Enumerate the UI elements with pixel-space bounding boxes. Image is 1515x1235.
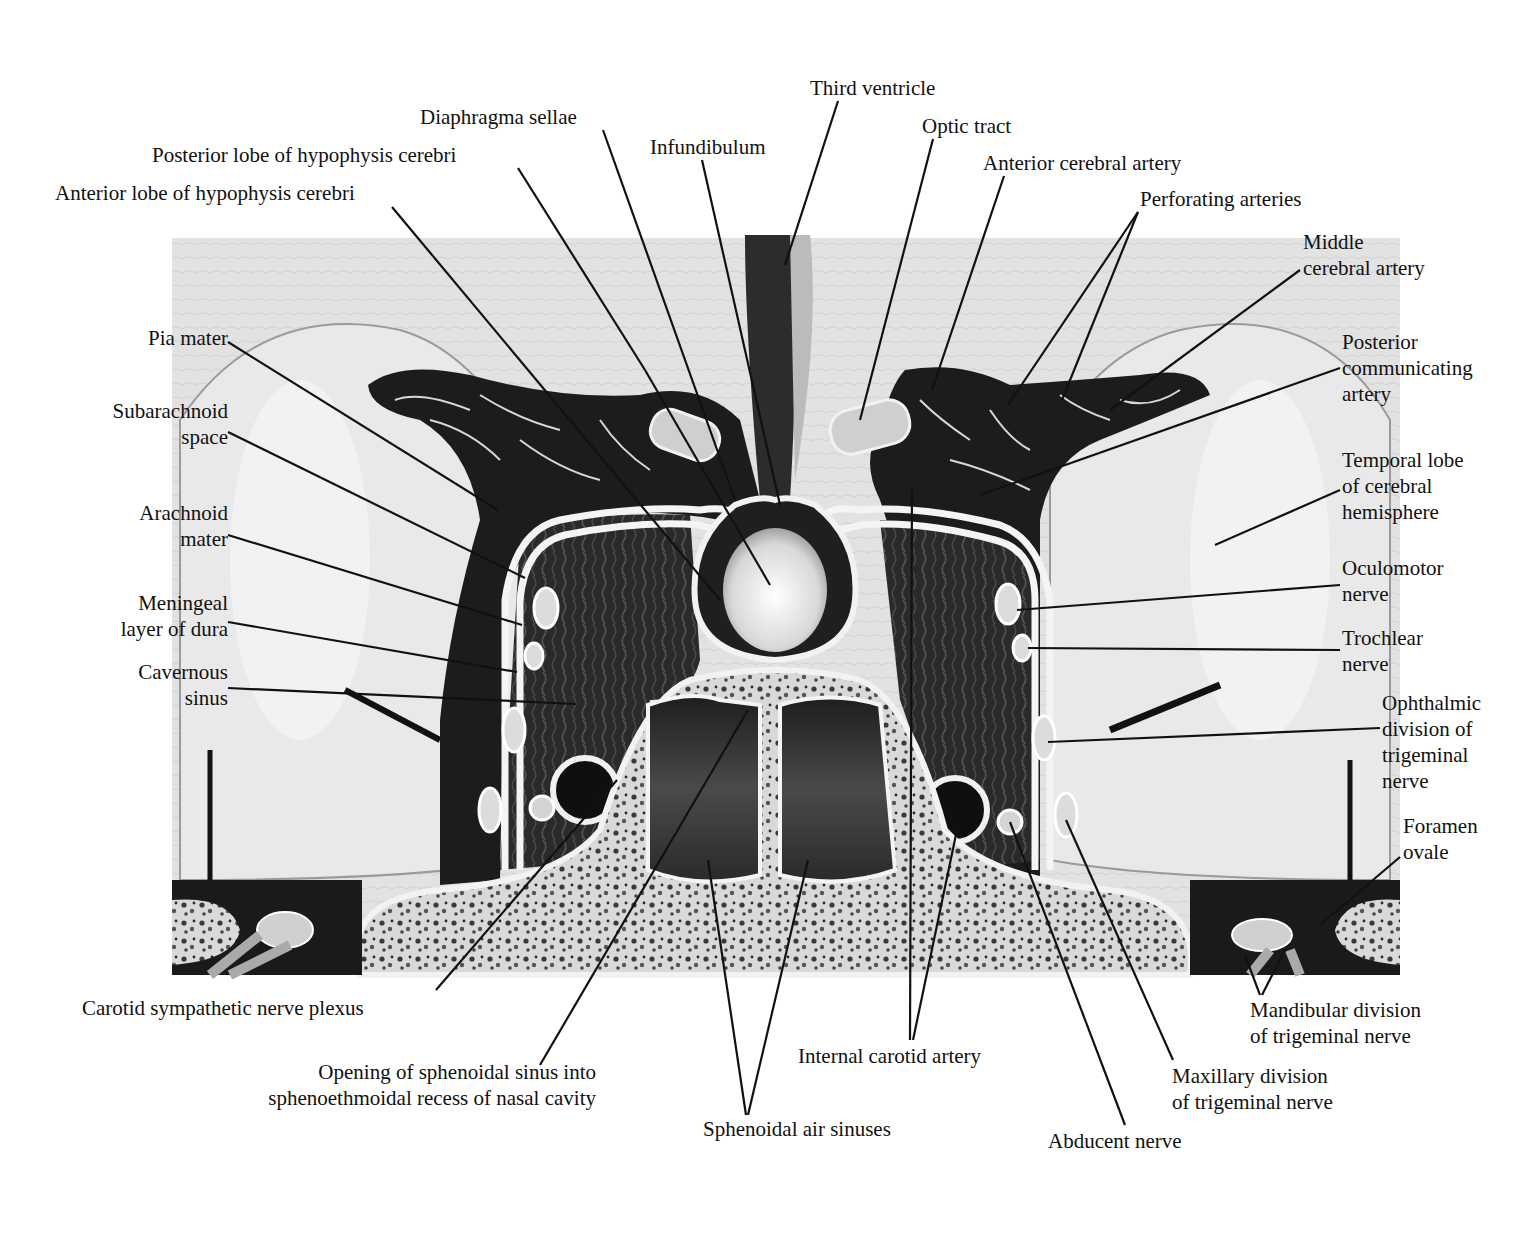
label-middle-cerebral-artery: Middle cerebral artery	[1303, 229, 1425, 281]
label-cavernous-sinus: Cavernous sinus	[60, 659, 228, 711]
hypophysis-shape	[695, 498, 856, 660]
label-arachnoid-mater: Arachnoid mater	[60, 500, 228, 552]
label-optic-tract: Optic tract	[922, 113, 1011, 139]
label-maxillary-division: Maxillary division of trigeminal nerve	[1172, 1063, 1333, 1115]
label-posterior-lobe: Posterior lobe of hypophysis cerebri	[152, 142, 456, 168]
label-anterior-lobe: Anterior lobe of hypophysis cerebri	[55, 180, 355, 206]
anatomy-figure: Third ventricleDiaphragma sellaeInfundib…	[0, 0, 1515, 1235]
label-oculomotor-nerve: Oculomotor nerve	[1342, 555, 1443, 607]
label-carotid-sympathetic-plexus: Carotid sympathetic nerve plexus	[82, 995, 364, 1021]
label-diaphragma-sellae: Diaphragma sellae	[420, 104, 577, 130]
label-subarachnoid-space: Subarachnoid space	[60, 398, 228, 450]
label-infundibulum: Infundibulum	[650, 134, 766, 160]
label-pia-mater: Pia mater	[60, 325, 228, 351]
label-temporal-lobe: Temporal lobe of cerebral hemisphere	[1342, 447, 1464, 525]
label-ophthalmic-division: Ophthalmic division of trigeminal nerve	[1382, 690, 1481, 794]
label-foramen-ovale: Foramen ovale	[1403, 813, 1478, 865]
label-abducent-nerve: Abducent nerve	[1048, 1128, 1182, 1154]
label-third-ventricle: Third ventricle	[810, 75, 935, 101]
label-internal-carotid-artery: Internal carotid artery	[798, 1043, 981, 1069]
label-posterior-communicating-artery: Posterior communicating artery	[1342, 329, 1473, 407]
label-opening-sphenoidal-sinus: Opening of sphenoidal sinus into sphenoe…	[172, 1059, 596, 1111]
label-anterior-cerebral-artery: Anterior cerebral artery	[983, 150, 1181, 176]
label-meningeal-dura: Meningeal layer of dura	[60, 590, 228, 642]
label-perforating-arteries: Perforating arteries	[1140, 186, 1302, 212]
label-sphenoidal-air-sinuses: Sphenoidal air sinuses	[703, 1116, 891, 1142]
label-trochlear-nerve: Trochlear nerve	[1342, 625, 1423, 677]
label-mandibular-division: Mandibular division of trigeminal nerve	[1250, 997, 1421, 1049]
